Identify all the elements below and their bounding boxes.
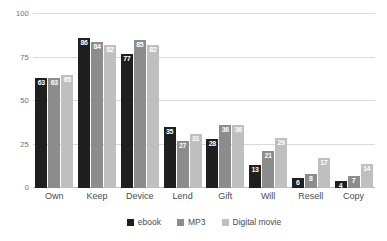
x-axis-label-copy: Copy <box>332 190 375 204</box>
bar-group: 778582 <box>119 14 162 188</box>
legend-item-ebook[interactable]: ebook <box>127 217 161 227</box>
y-tick-label: 75 <box>3 54 29 62</box>
legend-item-digital-movie[interactable]: Digital movie <box>222 217 282 227</box>
bar: 21 <box>262 151 274 188</box>
legend: ebookMP3Digital movie <box>33 215 375 229</box>
bar: 14 <box>361 164 373 188</box>
bar-value-label: 84 <box>93 43 100 51</box>
bar-value-label: 31 <box>192 135 199 143</box>
bar: 6 <box>292 178 304 188</box>
bar: 36 <box>232 125 244 188</box>
bar: 77 <box>121 54 133 188</box>
bar: 17 <box>318 158 330 188</box>
y-tick-label: 100 <box>3 10 29 18</box>
bar: 8 <box>305 174 317 188</box>
bar-value-label: 21 <box>264 152 271 160</box>
bar-value-label: 14 <box>363 165 370 173</box>
bar: 29 <box>275 138 287 188</box>
x-axis-label-own: Own <box>33 190 76 204</box>
bar-value-label: 29 <box>277 139 284 147</box>
legend-swatch-icon <box>177 219 184 226</box>
bar-value-label: 28 <box>209 140 216 148</box>
bar: 86 <box>78 38 90 188</box>
bar: 36 <box>219 125 231 188</box>
legend-swatch-icon <box>127 219 134 226</box>
bar-group: 132129 <box>247 14 290 188</box>
x-axis-label-lend: Lend <box>161 190 204 204</box>
bar: 65 <box>61 75 73 188</box>
bar-group: 283636 <box>204 14 247 188</box>
bar-value-label: 13 <box>251 166 258 174</box>
bar-value-label: 82 <box>149 46 156 54</box>
x-axis-label-resell: Resell <box>290 190 333 204</box>
bar: 82 <box>147 45 159 188</box>
bar-value-label: 8 <box>309 175 313 183</box>
legend-swatch-icon <box>222 219 229 226</box>
x-axis-labels: OwnKeepDeviceLendGiftWillResellCopy <box>33 190 375 204</box>
plot-area: 6363658684827785823527312836361321296817… <box>33 14 375 188</box>
bar: 84 <box>91 42 103 188</box>
bar: 82 <box>104 45 116 188</box>
y-tick-label: 25 <box>3 141 29 149</box>
bar-value-label: 65 <box>64 76 71 84</box>
bar: 63 <box>35 78 47 188</box>
bar-value-label: 77 <box>123 55 130 63</box>
bar: 7 <box>348 176 360 188</box>
bar: 35 <box>164 127 176 188</box>
bar: 13 <box>249 165 261 188</box>
legend-item-mp3[interactable]: MP3 <box>177 217 205 227</box>
bar-value-label: 85 <box>136 41 143 49</box>
y-axis: 0255075100 <box>0 14 29 188</box>
x-axis-label-gift: Gift <box>204 190 247 204</box>
bar-value-label: 63 <box>38 79 45 87</box>
legend-label: ebook <box>138 217 161 227</box>
bar-chart: 0255075100 63636586848277858235273128363… <box>0 0 387 241</box>
bar-value-label: 63 <box>51 79 58 87</box>
legend-label: Digital movie <box>233 217 282 227</box>
bar-group: 352731 <box>161 14 204 188</box>
bar: 85 <box>134 40 146 188</box>
bar: 27 <box>177 141 189 188</box>
y-tick-label: 0 <box>3 184 29 192</box>
legend-label: MP3 <box>188 217 205 227</box>
bar: 28 <box>206 139 218 188</box>
bar-group: 6817 <box>290 14 333 188</box>
bar-value-label: 36 <box>222 126 229 134</box>
bar: 31 <box>190 134 202 188</box>
bar-value-label: 17 <box>320 159 327 167</box>
bar-value-label: 7 <box>352 177 356 185</box>
bar-groups: 6363658684827785823527312836361321296817… <box>33 14 375 188</box>
x-axis-label-will: Will <box>247 190 290 204</box>
bar-value-label: 4 <box>339 182 343 190</box>
x-axis-label-device: Device <box>119 190 162 204</box>
bar: 63 <box>48 78 60 188</box>
y-tick-label: 50 <box>3 97 29 105</box>
bar-value-label: 35 <box>166 128 173 136</box>
x-axis-label-keep: Keep <box>76 190 119 204</box>
bar-value-label: 6 <box>296 179 300 187</box>
bar-value-label: 27 <box>179 142 186 150</box>
bar: 4 <box>335 181 347 188</box>
bar-group: 868482 <box>76 14 119 188</box>
bar-value-label: 82 <box>106 46 113 54</box>
bar-value-label: 36 <box>235 126 242 134</box>
bar-group: 4714 <box>332 14 375 188</box>
bar-value-label: 86 <box>80 39 87 47</box>
bar-group: 636365 <box>33 14 76 188</box>
